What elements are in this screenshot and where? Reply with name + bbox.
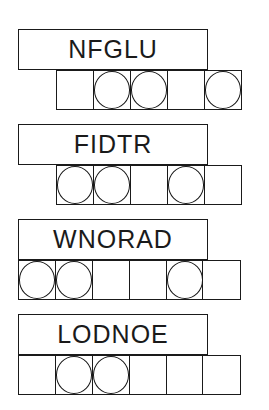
circle-marker-icon — [94, 71, 130, 109]
answer-cell-3[interactable] — [130, 70, 168, 110]
circle-marker-icon — [93, 356, 129, 394]
circle-marker-icon — [56, 356, 92, 394]
scrambled-word-box: FIDTR — [18, 124, 208, 165]
answer-cells — [18, 355, 241, 395]
circle-marker-icon — [205, 71, 241, 109]
answer-cell-3[interactable] — [92, 355, 130, 395]
answer-cell-5[interactable] — [204, 70, 242, 110]
answer-cell-5[interactable] — [166, 260, 204, 300]
answer-cell-1[interactable] — [56, 70, 94, 110]
answer-cell-4[interactable] — [129, 355, 167, 395]
answer-cell-4[interactable] — [129, 260, 167, 300]
answer-cell-1[interactable] — [56, 165, 94, 205]
answer-cell-1[interactable] — [18, 355, 56, 395]
answer-cells — [18, 260, 241, 300]
scrambled-word: LODNOE — [57, 320, 169, 349]
scrambled-word-box: NFGLU — [18, 29, 208, 70]
scrambled-word-box: LODNOE — [18, 314, 208, 355]
circle-marker-icon — [167, 261, 203, 299]
answer-cell-5[interactable] — [204, 165, 242, 205]
circle-marker-icon — [57, 166, 93, 204]
answer-cell-2[interactable] — [55, 355, 93, 395]
circle-marker-icon — [56, 261, 92, 299]
answer-cell-4[interactable] — [167, 70, 205, 110]
answer-cell-2[interactable] — [55, 260, 93, 300]
answer-cell-2[interactable] — [93, 165, 131, 205]
scrambled-word: FIDTR — [74, 130, 153, 159]
circle-marker-icon — [94, 166, 130, 204]
scrambled-word: WNORAD — [53, 225, 173, 254]
answer-cell-4[interactable] — [167, 165, 205, 205]
answer-cell-6[interactable] — [202, 355, 240, 395]
answer-cells — [56, 70, 242, 110]
scrambled-word: NFGLU — [68, 35, 158, 64]
answer-cell-1[interactable] — [18, 260, 56, 300]
answer-cell-2[interactable] — [93, 70, 131, 110]
circle-marker-icon — [131, 71, 167, 109]
answer-cell-5[interactable] — [166, 355, 204, 395]
answer-cell-3[interactable] — [130, 165, 168, 205]
answer-cells — [56, 165, 242, 205]
circle-marker-icon — [19, 261, 55, 299]
scrambled-word-box: WNORAD — [18, 219, 208, 260]
answer-cell-6[interactable] — [202, 260, 240, 300]
circle-marker-icon — [168, 166, 204, 204]
answer-cell-3[interactable] — [92, 260, 130, 300]
